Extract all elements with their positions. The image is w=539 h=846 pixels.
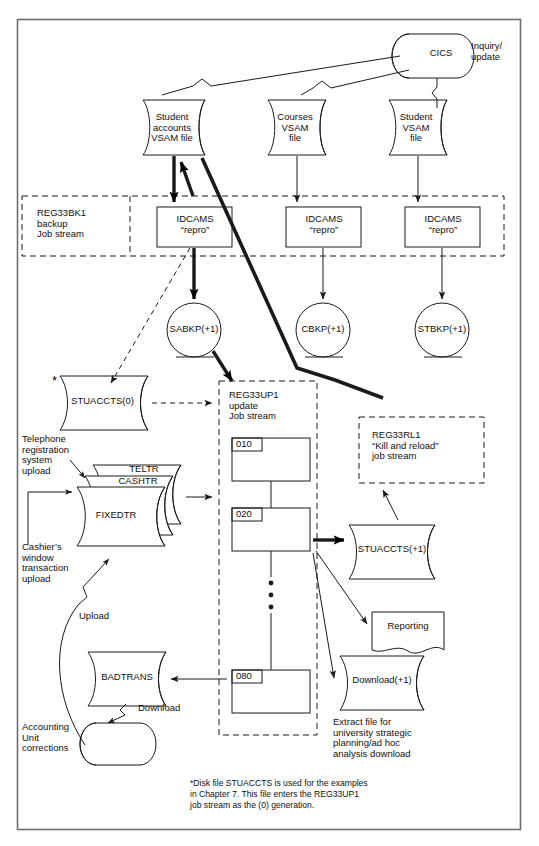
ellipsis-dot-1 [269, 581, 274, 586]
disk-fixedtr [77, 487, 165, 546]
ellipsis-dot-2 [269, 593, 274, 598]
diagram-canvas: CICS Inquiry/ update Student accounts VS… [0, 0, 539, 846]
ellipsis-dot-3 [269, 605, 274, 610]
diagram-frame [18, 20, 521, 830]
diagram-vector-layer [0, 0, 539, 846]
